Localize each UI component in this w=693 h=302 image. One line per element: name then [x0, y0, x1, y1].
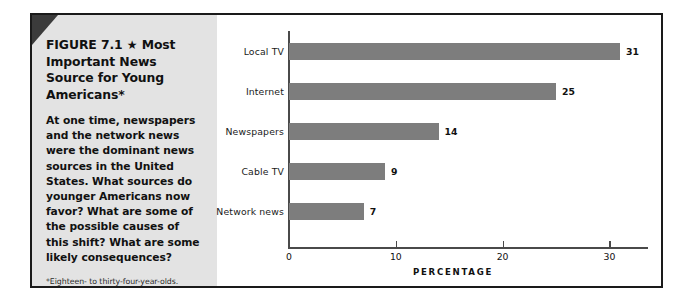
x-axis-tick-label: 30	[603, 251, 615, 262]
bar-chart: Local TVInternetNewspapersCable TVNetwor…	[217, 15, 661, 286]
bar-value-label: 9	[391, 166, 397, 177]
figure-notes: *Eighteen- to thirty-four-year-olds. SOU…	[46, 276, 205, 286]
bar	[289, 43, 620, 60]
x-axis-tick	[396, 241, 397, 248]
figure-number: FIGURE 7.1	[46, 37, 123, 52]
category-label: Cable TV	[241, 166, 284, 177]
x-axis-tick-label: 0	[286, 251, 292, 262]
x-axis-tick-label: 10	[390, 251, 402, 262]
category-label: Network news	[216, 206, 284, 217]
category-label: Newspapers	[225, 126, 284, 137]
bar	[289, 203, 364, 220]
x-axis-tick-label: 20	[497, 251, 509, 262]
category-label: Internet	[246, 86, 284, 97]
figure-caption-sidebar: FIGURE 7.1 ★ Most Important News Source …	[32, 15, 217, 286]
figure-footnote: *Eighteen- to thirty-four-year-olds.	[46, 276, 205, 286]
bar	[289, 83, 556, 100]
star-icon: ★	[127, 38, 138, 52]
figure-container: FIGURE 7.1 ★ Most Important News Source …	[30, 13, 663, 288]
bar	[289, 163, 385, 180]
x-axis-tick	[609, 241, 610, 248]
bar-value-label: 31	[626, 46, 639, 57]
figure-title: FIGURE 7.1 ★ Most Important News Source …	[46, 37, 205, 103]
category-label: Local TV	[244, 46, 284, 57]
x-axis-tick	[503, 241, 504, 248]
x-axis-title: PERCENTAGE	[288, 267, 618, 277]
figure-title-rest: Important News Source for Young American…	[46, 54, 164, 102]
x-axis-line	[288, 247, 648, 249]
figure-title-head: Most	[142, 37, 176, 52]
bar	[289, 123, 439, 140]
bar-value-label: 25	[562, 86, 575, 97]
bar-value-label: 14	[445, 126, 458, 137]
bar-value-label: 7	[370, 206, 376, 217]
figure-description: At one time, newspapers and the network …	[46, 113, 205, 265]
